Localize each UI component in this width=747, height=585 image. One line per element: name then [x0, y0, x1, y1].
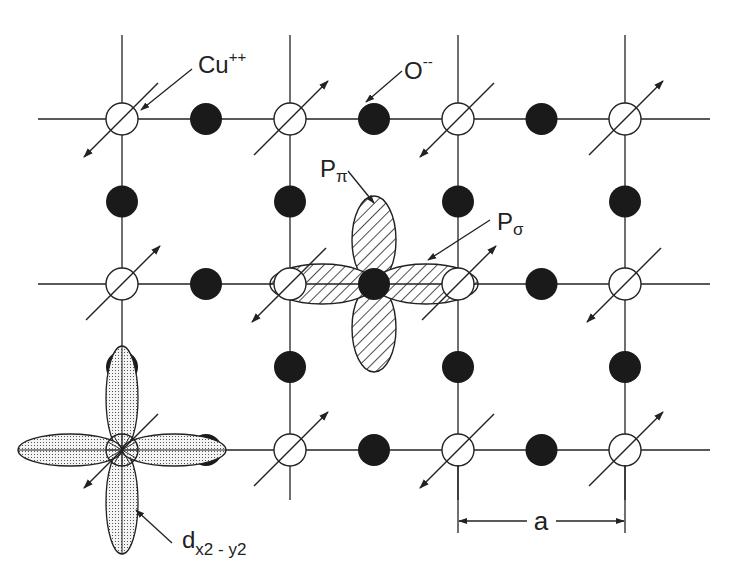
oxygen-atom [358, 268, 390, 300]
spin-down-arrow-icon [587, 248, 661, 322]
d-orbital-pointer-line [136, 510, 172, 543]
spin-down-arrow-icon [420, 83, 494, 157]
p-pi-pointer-line [348, 171, 374, 203]
spin-up-arrow-icon [254, 81, 328, 155]
p-sigma-label: Pσ [497, 208, 524, 239]
oxygen-atom [442, 351, 474, 383]
p-sigma-pointer-line [428, 220, 490, 260]
oxygen-atom [190, 268, 222, 300]
p-pi-label: Pπ [320, 155, 348, 186]
oxygen-atom [190, 103, 222, 135]
oxygen-atom [609, 186, 641, 218]
oxygen-atom [442, 186, 474, 218]
spin-up-arrow-icon [589, 81, 663, 155]
spin-up-arrow-icon [86, 246, 160, 320]
cu-label: Cu++ [198, 48, 246, 78]
oxygen-atom [358, 434, 390, 466]
spin-down-arrow-icon [420, 414, 494, 488]
oxygen-atom [274, 186, 306, 218]
cuo2-plane-diagram: Cu++ O-- Pπ Pσ dx2 - y2 a [0, 0, 747, 585]
cu-pointer-line [141, 69, 192, 110]
oxygen-atom [526, 434, 558, 466]
oxygen-atom [526, 268, 558, 300]
spin-down-arrow-icon [84, 83, 158, 157]
spin-up-arrow-icon [589, 412, 663, 486]
oxygen-atom [358, 103, 390, 135]
oxygen-atom [274, 351, 306, 383]
d-orbital-label: dx2 - y2 [182, 526, 246, 559]
spin-up-arrow-icon [254, 412, 328, 486]
lattice-constant-label: a [534, 506, 549, 536]
oxygen-atom [609, 351, 641, 383]
oxygen-atom [526, 103, 558, 135]
o-pointer-line [366, 71, 402, 102]
oxygen-atom [106, 186, 138, 218]
o-label: O-- [404, 53, 433, 84]
